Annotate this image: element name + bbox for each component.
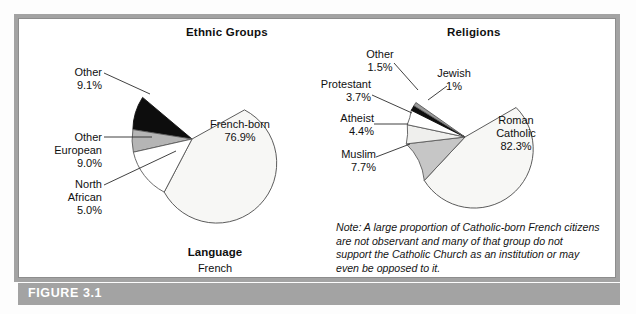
pie-label-roman-catholic-name-line1: Roman — [481, 114, 551, 127]
pie-label-other-european-value: 9.0% — [24, 157, 102, 170]
pie-label-other-european-name-line1: Other — [24, 131, 102, 144]
pie-label-protestant: Protestant 3.7% — [309, 78, 371, 104]
pie-label-other-religion-name: Other — [355, 48, 405, 61]
pie-label-jewish-value: 1% — [432, 80, 476, 93]
pie-label-french-born-value: 76.9% — [200, 131, 280, 144]
pie-label-atheist-name: Atheist — [322, 112, 374, 125]
pie-label-north-african-name-line2: African — [38, 191, 102, 204]
pie-label-atheist: Atheist 4.4% — [322, 112, 374, 138]
pie-label-other-religion-value: 1.5% — [355, 61, 405, 74]
pie-label-other-ethnic: Other 9.1% — [44, 66, 102, 92]
pie-label-muslim-name: Muslim — [330, 148, 376, 161]
pie-label-north-african-name-line1: North — [38, 178, 102, 191]
pie-label-french-born-name: French-born — [200, 118, 280, 131]
pie-label-muslim-value: 7.7% — [330, 161, 376, 174]
pie-label-other-ethnic-name: Other — [44, 66, 102, 79]
pie-label-roman-catholic-value: 82.3% — [481, 140, 551, 153]
language-block: Language French — [155, 246, 275, 274]
pie-label-french-born: French-born 76.9% — [200, 118, 280, 144]
pie-label-protestant-name: Protestant — [309, 78, 371, 91]
pie-label-north-african-value: 5.0% — [38, 204, 102, 217]
leader-line-other-ethnic — [104, 73, 150, 94]
pie-label-muslim: Muslim 7.7% — [330, 148, 376, 174]
pie-label-other-european-name-line2: European — [24, 144, 102, 157]
pie-label-jewish: Jewish 1% — [432, 67, 476, 93]
figure-caption-bar: FIGURE 3.1 — [18, 283, 620, 305]
pie-label-protestant-value: 3.7% — [309, 91, 371, 104]
pie-label-roman-catholic: Roman Catholic 82.3% — [481, 114, 551, 153]
pie-label-atheist-value: 4.4% — [322, 125, 374, 138]
pie-label-other-ethnic-value: 9.1% — [44, 79, 102, 92]
pie-label-other-religion: Other 1.5% — [355, 48, 405, 74]
leader-line-protestant — [372, 95, 412, 113]
language-value: French — [155, 262, 275, 274]
pie-label-north-african: North African 5.0% — [38, 178, 102, 217]
pie-label-other-european: Other European 9.0% — [24, 131, 102, 170]
leader-line-muslim — [376, 144, 410, 157]
language-heading: Language — [155, 246, 275, 258]
pie-label-roman-catholic-name-line2: Catholic — [481, 127, 551, 140]
figure-caption-label: FIGURE 3.1 — [28, 286, 102, 300]
chart-note: Note: A large proportion of Catholic-bor… — [336, 221, 600, 275]
pie-label-jewish-name: Jewish — [432, 67, 476, 80]
